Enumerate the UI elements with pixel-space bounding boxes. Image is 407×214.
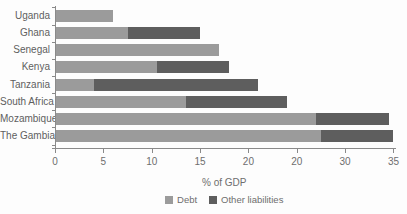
- legend-label: Other liabilities: [221, 194, 283, 205]
- bar-segment-debt: [55, 61, 157, 73]
- x-axis-tick-label: 15: [185, 156, 215, 167]
- category-label: Kenya: [0, 61, 50, 73]
- bar-segment-other-liabilities: [157, 61, 230, 73]
- x-axis-tick-label: 20: [233, 156, 263, 167]
- x-axis-tick-label: 30: [330, 156, 360, 167]
- category-label: Ghana: [0, 27, 50, 39]
- x-axis-tick-label: 20: [282, 156, 312, 167]
- legend-swatch-icon: [209, 196, 217, 204]
- x-axis-tick-label: 35: [378, 156, 407, 167]
- legend-item: Other liabilities: [209, 194, 283, 205]
- bar-segment-debt: [55, 130, 321, 142]
- category-label: South Africa: [0, 96, 50, 108]
- x-axis-tick: [152, 149, 153, 153]
- legend-label: Debt: [177, 194, 197, 205]
- x-axis-tick: [248, 149, 249, 153]
- bar-segment-debt: [55, 44, 219, 56]
- x-axis-tick: [345, 149, 346, 153]
- legend-item: Debt: [165, 194, 197, 205]
- bar-segment-other-liabilities: [321, 130, 394, 142]
- x-axis-tick: [55, 149, 56, 153]
- x-axis-tick: [103, 149, 104, 153]
- x-axis-tick: [200, 149, 201, 153]
- x-axis-line: [52, 148, 396, 149]
- x-axis-tick: [297, 149, 298, 153]
- bar-segment-other-liabilities: [186, 96, 288, 108]
- x-axis-title: % of GDP: [55, 177, 393, 188]
- category-label: Mozambique: [0, 113, 50, 125]
- x-axis-tick-label: 10: [137, 156, 167, 167]
- legend: DebtOther liabilities: [55, 194, 393, 205]
- bar-segment-debt: [55, 10, 113, 22]
- x-axis-tick-label: 0: [40, 156, 70, 167]
- bar-segment-other-liabilities: [94, 79, 258, 91]
- legend-swatch-icon: [165, 196, 173, 204]
- bar-segment-other-liabilities: [316, 113, 389, 125]
- bar-segment-debt: [55, 27, 128, 39]
- category-label: The Gambia: [0, 130, 50, 142]
- category-label: Tanzania: [0, 79, 50, 91]
- bar-segment-other-liabilities: [128, 27, 201, 39]
- x-axis-tick-label: 5: [88, 156, 118, 167]
- bar-segment-debt: [55, 79, 94, 91]
- category-label: Senegal: [0, 44, 50, 56]
- bar-segment-debt: [55, 113, 316, 125]
- y-axis-line: [55, 6, 56, 148]
- stacked-bar-chart: UgandaGhanaSenegalKenyaTanzaniaSouth Afr…: [0, 0, 407, 214]
- category-label: Uganda: [0, 10, 50, 22]
- x-axis-tick: [393, 149, 394, 153]
- bar-segment-debt: [55, 96, 186, 108]
